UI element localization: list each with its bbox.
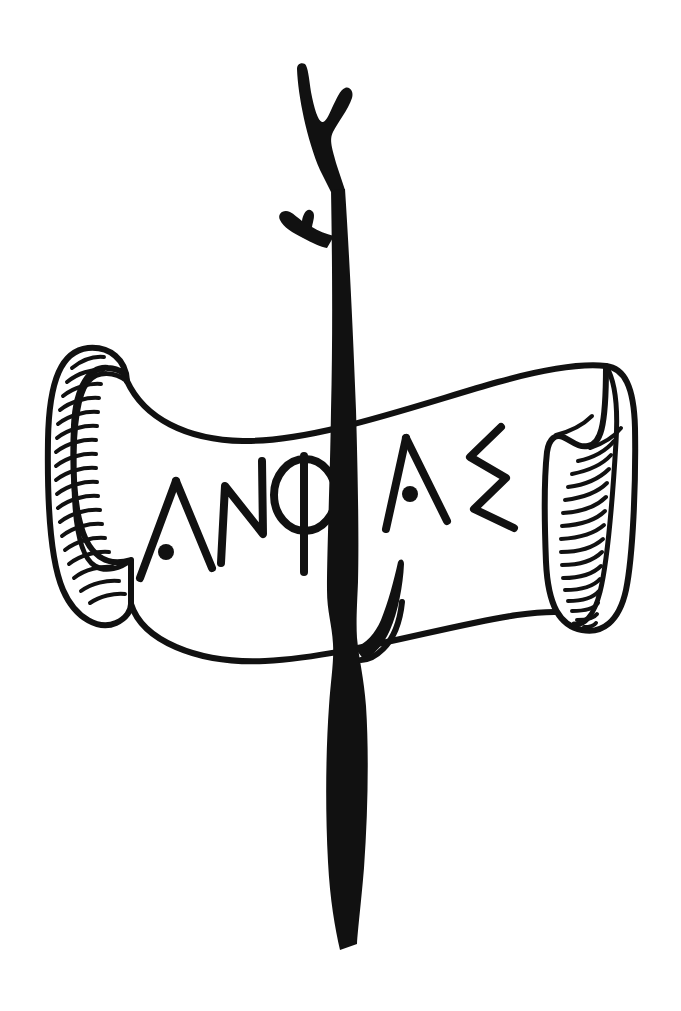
ink-drawing <box>0 0 681 1011</box>
artboard: Inscribed Scroll and Staff <box>0 0 681 1011</box>
left-rolled-end <box>48 348 131 625</box>
left-curl-outline <box>48 348 131 625</box>
upper-branch-stub <box>279 210 334 248</box>
lambda-2-dot <box>402 486 418 502</box>
forked-tip <box>297 63 353 192</box>
lambda-1-dot <box>158 544 174 560</box>
